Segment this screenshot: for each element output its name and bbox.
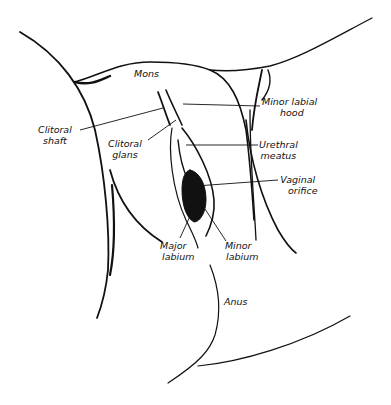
- leader-vaginal-orifice: [196, 180, 278, 186]
- label-minor-labial-hood-line1: Minor labial: [262, 96, 317, 107]
- label-mons: Mons: [134, 68, 159, 79]
- label-clitoral-glans: Clitoral glans: [108, 138, 142, 160]
- leader-minor-labial-hood: [183, 104, 260, 106]
- label-urethral-meatus-line1: Urethral: [259, 139, 298, 150]
- buttock-curve: [198, 316, 350, 366]
- leader-minor-labium: [205, 209, 226, 241]
- perineum-line: [168, 265, 219, 383]
- left-labium-outer: [110, 170, 162, 242]
- label-clitoral-glans-line2: glans: [108, 149, 142, 160]
- label-urethral-meatus-line2: meatus: [259, 150, 298, 161]
- label-clitoral-shaft-line2: shaft: [38, 135, 72, 146]
- label-clitoral-shaft: Clitoral shaft: [38, 124, 72, 146]
- label-minor-labium-line2: labium: [218, 251, 258, 262]
- label-minor-labial-hood: Minor labial hood: [262, 96, 317, 118]
- label-major-labium: Major labium: [152, 240, 194, 262]
- label-vaginal-orifice-line1: Vaginal: [278, 174, 318, 185]
- label-clitoral-shaft-line1: Clitoral: [38, 124, 72, 135]
- label-major-labium-line2: labium: [152, 251, 194, 262]
- anatomy-illustration: [0, 0, 391, 405]
- label-mons-text: Mons: [134, 68, 159, 79]
- label-minor-labial-hood-line2: hood: [262, 107, 317, 118]
- label-anus-text: Anus: [224, 296, 248, 307]
- label-anus: Anus: [224, 296, 248, 307]
- label-vaginal-orifice: Vaginal orifice: [278, 174, 318, 196]
- vaginal-orifice: [182, 170, 206, 222]
- label-clitoral-glans-line1: Clitoral: [108, 138, 142, 149]
- mons-contour: [75, 62, 254, 220]
- label-major-labium-line1: Major: [152, 240, 194, 251]
- label-minor-labium: Minor labium: [218, 240, 258, 262]
- label-minor-labium-line1: Minor: [218, 240, 258, 251]
- label-urethral-meatus: Urethral meatus: [259, 139, 298, 161]
- label-vaginal-orifice-line2: orifice: [278, 185, 318, 196]
- right-upper-contour: [210, 18, 372, 71]
